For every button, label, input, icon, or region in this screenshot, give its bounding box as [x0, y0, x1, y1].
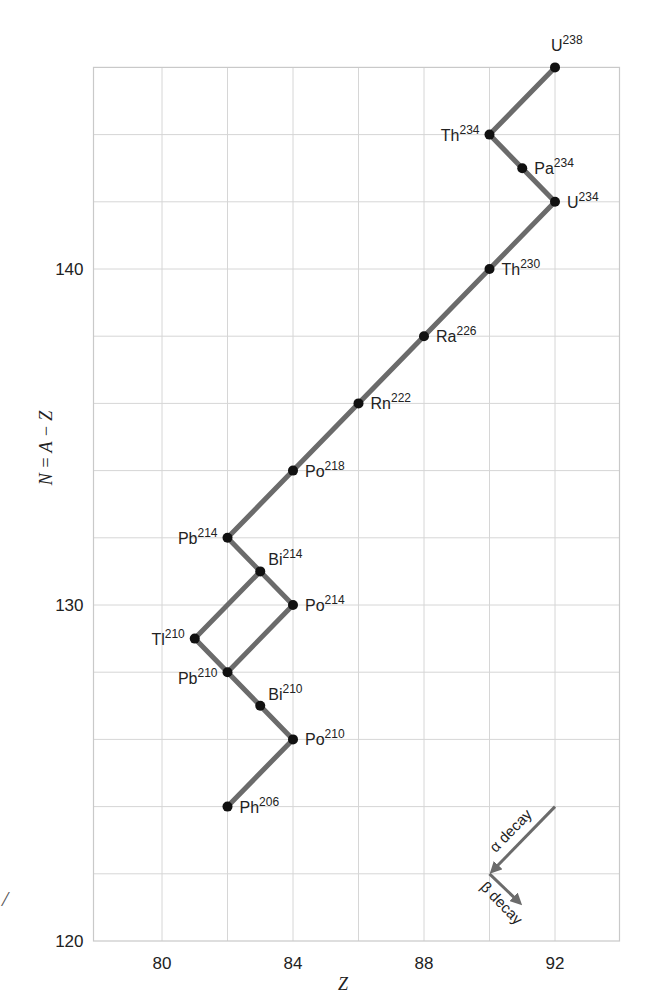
- nuclide-label: Ph206: [240, 795, 280, 816]
- nuclide-label: Th234: [441, 123, 480, 144]
- nuclide-label: Po210: [305, 727, 345, 748]
- nuclide-point: [223, 533, 233, 543]
- nuclide-point: [288, 600, 298, 610]
- nuclide-label: Ra226: [436, 324, 477, 345]
- nuclide-label: Pb210: [178, 666, 218, 687]
- y-tick-label: 140: [55, 260, 83, 279]
- decay-paths: [195, 67, 555, 806]
- alpha-decay-label: α decay: [486, 805, 535, 855]
- axis-ticks: 80848892120130140: [55, 260, 564, 973]
- nuclide-point: [190, 634, 200, 644]
- nuclide-label: Th230: [502, 257, 541, 278]
- nuclide-point: [485, 130, 495, 140]
- nuclide-label: Pa234: [534, 156, 574, 177]
- y-tick-label: 130: [55, 596, 83, 615]
- x-axis-label: Z: [338, 974, 349, 994]
- nuclide-label: U234: [567, 190, 599, 211]
- nuclide-point: [550, 197, 560, 207]
- nuclide-label: Bi214: [268, 547, 303, 568]
- decay-path-segment: [490, 67, 556, 134]
- nuclide-point: [223, 667, 233, 677]
- nuclide-label: U238: [551, 33, 583, 54]
- nuclide-label: Tl210: [151, 627, 185, 648]
- decay-chain-chart: 80848892120130140 Z N = A − Z U238Th234P…: [0, 0, 649, 1008]
- x-tick-label: 88: [415, 954, 434, 973]
- nuclide-label: Rn222: [371, 391, 412, 412]
- decay-legend: α decayβ decay: [477, 805, 555, 928]
- y-tick-label: 120: [55, 932, 83, 951]
- nuclide-point: [354, 398, 364, 408]
- x-tick-label: 80: [153, 954, 172, 973]
- nuclide-label: Bi210: [268, 682, 303, 703]
- y-axis-label: N = A − Z: [36, 410, 56, 487]
- decay-path-segment: [228, 202, 556, 538]
- nuclide-label: Po218: [305, 459, 345, 480]
- nuclide-point: [288, 466, 298, 476]
- x-tick-label: 84: [284, 954, 303, 973]
- nuclide-label: Pb214: [178, 526, 218, 547]
- nuclide-point: [255, 701, 265, 711]
- nuclide-point: [288, 734, 298, 744]
- nuclide-labels: U238Th234Pa234U234Th230Ra226Rn222Po218Pb…: [151, 33, 599, 815]
- nuclide-point: [517, 163, 527, 173]
- grid: [94, 67, 620, 941]
- nuclide-point: [485, 264, 495, 274]
- nuclide-point: [255, 566, 265, 576]
- nuclide-point: [223, 802, 233, 812]
- cropped-edge-glyph: /: [2, 886, 8, 912]
- decay-path-segment: [228, 605, 294, 672]
- nuclide-point: [419, 331, 429, 341]
- nuclide-points: [190, 62, 560, 811]
- x-tick-label: 92: [546, 954, 565, 973]
- nuclide-label: Po214: [305, 593, 345, 614]
- nuclide-point: [550, 62, 560, 72]
- plot-border: [94, 67, 620, 941]
